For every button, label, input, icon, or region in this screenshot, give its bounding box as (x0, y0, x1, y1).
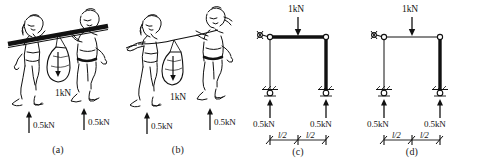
reaction-arrow-right-c (323, 99, 329, 118)
dimension-right-label-c: l/2 (306, 130, 315, 140)
hinge-joint-top-right-d (437, 34, 442, 39)
reaction-left-label-d: 0.5kN (367, 119, 389, 129)
dimension-line-c (266, 135, 329, 145)
reaction-right-label-b: 0.5kN (214, 117, 236, 127)
reaction-arrow-right-b (207, 108, 213, 130)
reaction-right-label-a: 0.5kN (88, 117, 110, 127)
load-label-d: 1kN (402, 4, 418, 14)
caption-b: (b) (158, 144, 198, 155)
reaction-left-label-c: 0.5kN (253, 119, 275, 129)
load-label-c: 1kN (288, 4, 304, 14)
hinge-joint-top-right-c (323, 34, 328, 39)
load-label-b: 1kN (170, 92, 186, 102)
pin-support-left-c (262, 86, 278, 96)
panel-b: 1kN 0.5kN 0.5kN (b) (118, 0, 243, 167)
reaction-arrow-left-b (144, 112, 150, 134)
reaction-arrow-left-c (267, 99, 273, 118)
reaction-arrow-right-a (81, 108, 87, 130)
reaction-right-label-c: 0.5kN (310, 119, 332, 129)
pin-support-right-c (318, 86, 334, 96)
pin-support-right-d (432, 86, 448, 96)
load-arrow-d (409, 17, 415, 36)
caption-a: (a) (38, 144, 78, 155)
panel-c: 1kN 0.5kN 0.5kN l/2 l/2 (c) (248, 0, 370, 167)
dimension-right-label-d: l/2 (420, 130, 429, 140)
engineering-figure: 1kN 0.5kN 0.5kN (a) (0, 0, 478, 167)
reaction-arrow-left-a (26, 111, 32, 133)
load-arrow-c (295, 17, 301, 36)
pin-support-left-d (376, 86, 392, 96)
reaction-arrow-left-d (381, 99, 387, 118)
reaction-arrow-right-d (437, 99, 443, 118)
reaction-left-label-b: 0.5kN (151, 121, 173, 131)
reaction-right-label-d: 0.5kN (424, 119, 446, 129)
hinge-joint-top-left-d (371, 31, 387, 40)
load-label-a: 1kN (55, 88, 71, 98)
hinge-joint-top-left-c (257, 31, 273, 40)
caption-d: (d) (392, 146, 432, 157)
reaction-left-label-a: 0.5kN (33, 120, 55, 130)
panel-a: 1kN 0.5kN 0.5kN (a) (0, 0, 120, 167)
dimension-line-d (380, 135, 443, 145)
dimension-left-label-c: l/2 (278, 130, 287, 140)
caption-c: (c) (278, 146, 318, 157)
dimension-left-label-d: l/2 (392, 130, 401, 140)
panel-d: 1kN 0.5kN 0.5kN l/2 l/2 (d) (362, 0, 478, 167)
